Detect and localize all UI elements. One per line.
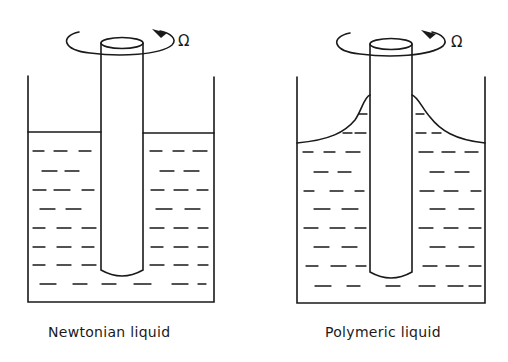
newtonian-rod-top xyxy=(101,38,143,49)
newtonian-arrowhead-icon xyxy=(152,29,167,38)
polymeric-liquid-dashes xyxy=(303,114,481,286)
newtonian-omega-symbol: Ω xyxy=(178,32,189,50)
polymeric-liquid-surface-right xyxy=(412,95,485,143)
newtonian-caption: Newtonian liquid xyxy=(48,324,170,340)
polymeric-caption: Polymeric liquid xyxy=(325,324,441,340)
polymeric-omega-symbol: Ω xyxy=(451,33,462,51)
polymeric-panel xyxy=(297,32,485,303)
newtonian-panel xyxy=(28,31,214,302)
newtonian-container xyxy=(28,76,214,302)
polymeric-rod xyxy=(370,44,412,278)
rod-climbing-diagram xyxy=(0,0,508,362)
newtonian-liquid-dashes xyxy=(33,151,208,284)
newtonian-rod xyxy=(101,43,143,276)
polymeric-liquid-surface xyxy=(297,95,370,143)
polymeric-arrowhead-icon xyxy=(421,30,436,39)
polymeric-rod-top xyxy=(370,39,412,50)
polymeric-container xyxy=(297,77,485,303)
